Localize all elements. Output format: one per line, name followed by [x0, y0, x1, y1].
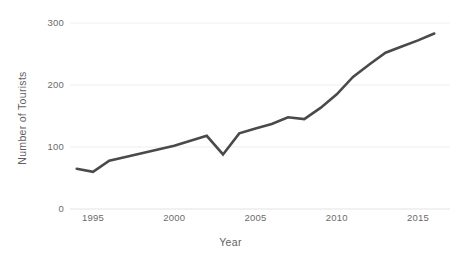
data-line-series [77, 34, 435, 172]
x-axis-tick-label: 2010 [317, 212, 357, 223]
x-axis-title: Year [0, 236, 461, 248]
x-axis-tick-label: 2000 [154, 212, 194, 223]
x-axis-tick-label: 2015 [398, 212, 438, 223]
y-axis-tick-label: 100 [34, 141, 64, 152]
chart-plot-area [0, 0, 461, 274]
line-chart: 0100200300 19952000200520102015 Number o… [0, 0, 461, 274]
x-axis-tick-label: 2005 [236, 212, 276, 223]
y-axis-tick-label: 0 [34, 203, 64, 214]
series-line-number-of-tourists [77, 34, 435, 172]
y-axis-title: Number of Tourists [16, 53, 28, 183]
y-axis-tick-label: 300 [34, 17, 64, 28]
y-axis-tick-label: 200 [34, 79, 64, 90]
x-axis-tick-label: 1995 [73, 212, 113, 223]
